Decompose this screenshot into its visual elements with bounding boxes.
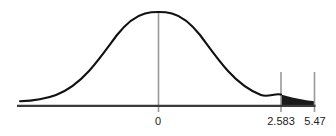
shaded-tail-region [281, 95, 315, 106]
x-tick-label-zero: 0 [148, 116, 168, 127]
normal-curve-figure: 0 2.583 5.47 [0, 0, 336, 136]
normal-density-curve [20, 12, 281, 101]
x-tick-label-test-statistic: 5.47 [294, 116, 336, 127]
